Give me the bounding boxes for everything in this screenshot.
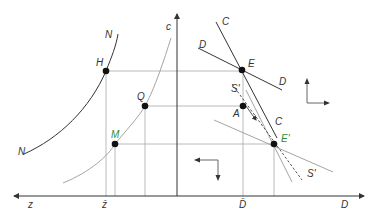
label-d-bar: D̄ bbox=[239, 198, 246, 210]
c-line bbox=[216, 22, 277, 138]
label-e: E bbox=[248, 58, 255, 69]
label-s-prime-bottom: S' bbox=[307, 168, 317, 179]
direction-indicator-right bbox=[305, 78, 331, 106]
label-n-upper: N bbox=[105, 29, 113, 40]
economic-diagram: N N H c Q M C D E D S' A C E' S' z z̄ D̄… bbox=[0, 0, 375, 218]
point-e-prime bbox=[271, 141, 278, 148]
label-c-curve: c bbox=[166, 21, 171, 32]
c-curve bbox=[63, 38, 171, 183]
s-prime-arrow bbox=[246, 106, 256, 120]
point-a bbox=[240, 103, 247, 110]
label-h: H bbox=[96, 57, 104, 68]
point-m bbox=[112, 141, 119, 148]
arrow-up-icon bbox=[305, 78, 310, 84]
label-e-prime: E' bbox=[281, 133, 291, 144]
points bbox=[103, 67, 278, 148]
arrow-right-icon bbox=[324, 101, 330, 106]
point-q bbox=[142, 103, 149, 110]
arrow-left-icon bbox=[194, 158, 200, 163]
label-s-prime-top: S' bbox=[231, 83, 241, 94]
label-c-line-lower: C bbox=[275, 116, 283, 127]
label-z-axis: z bbox=[27, 199, 33, 210]
label-z-bar: z̄ bbox=[101, 199, 107, 210]
direction-indicator-left bbox=[194, 158, 221, 182]
label-d-line-left: D bbox=[199, 39, 206, 50]
label-q: Q bbox=[137, 91, 145, 102]
label-d-axis: D bbox=[341, 199, 348, 210]
label-m: M bbox=[111, 129, 120, 140]
projection-lines bbox=[106, 70, 274, 196]
arrow-down-icon bbox=[216, 175, 221, 181]
label-a: A bbox=[232, 108, 240, 119]
label-d-line-right: D bbox=[279, 76, 286, 87]
point-e bbox=[239, 67, 246, 74]
label-n-lower: N bbox=[18, 146, 26, 157]
n-curve bbox=[24, 34, 118, 154]
point-h bbox=[103, 68, 110, 75]
label-c-line-top: C bbox=[222, 16, 230, 27]
